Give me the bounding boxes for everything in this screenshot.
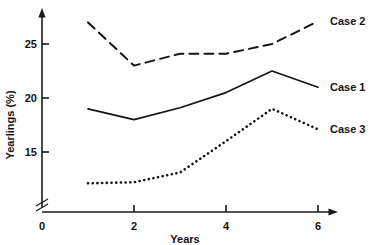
series-line-case-1 xyxy=(88,71,318,120)
y-axis xyxy=(38,8,45,208)
y-tick-label-15: 15 xyxy=(25,146,37,158)
series-label-case-2: Case 2 xyxy=(330,15,365,27)
x-tick-label-6: 6 xyxy=(315,220,321,232)
y-tick-label-25: 25 xyxy=(25,38,37,50)
x-tick-label-4: 4 xyxy=(223,220,230,232)
x-axis-title: Years xyxy=(170,233,199,245)
x-tick-label-0: 0 xyxy=(39,220,45,232)
x-axis xyxy=(42,208,338,215)
series-line-case-2 xyxy=(88,21,318,65)
y-axis-arrow-icon xyxy=(38,8,45,18)
chart-canvas: 25 20 15 0 2 4 6 Years Yearlings (%) Cas… xyxy=(0,0,378,245)
x-axis-arrow-icon xyxy=(329,208,339,215)
x-tick-marks xyxy=(134,205,318,212)
series-label-case-1: Case 1 xyxy=(330,81,365,93)
line-chart: 25 20 15 0 2 4 6 Years Yearlings (%) Cas… xyxy=(0,0,378,245)
series-line-case-3 xyxy=(88,109,318,184)
y-tick-label-20: 20 xyxy=(25,92,37,104)
y-tick-marks xyxy=(42,44,49,152)
series-label-case-3: Case 3 xyxy=(330,123,365,135)
x-tick-label-2: 2 xyxy=(131,220,137,232)
y-axis-title: Yearlings (%) xyxy=(4,90,16,159)
